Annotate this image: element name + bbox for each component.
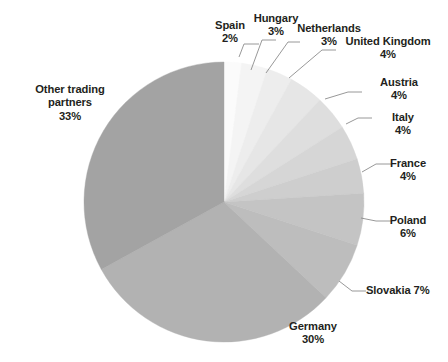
pie-label-poland: Poland 6% <box>372 214 444 241</box>
pie-label-poland-value: 6% <box>372 227 444 240</box>
leader-line-united-kingdom <box>289 50 336 78</box>
pie-label-other-value: 33% <box>18 110 122 123</box>
pie-label-united-kingdom-name: United Kingdom <box>330 35 446 48</box>
pie-label-slovakia-name: Slovakia 7% <box>366 284 448 297</box>
pie-label-other-name-line2: partners <box>18 96 122 109</box>
pie-chart-figure: Spain 2% Hungary 3% Netherlands 3% Unite… <box>0 0 448 362</box>
pie-label-italy: Italy 4% <box>366 111 440 138</box>
pie-label-france: France 4% <box>372 157 444 184</box>
pie-label-germany-value: 30% <box>272 333 354 346</box>
pie-label-other-name-line1: Other trading <box>18 83 122 96</box>
pie-label-italy-value: 4% <box>366 124 440 137</box>
leader-line-austria <box>325 92 362 99</box>
pie-label-poland-name: Poland <box>372 214 444 227</box>
pie-label-austria-value: 4% <box>358 89 440 102</box>
pie-label-netherlands-name: Netherlands <box>286 22 372 35</box>
pie-label-italy-name: Italy <box>366 111 440 124</box>
pie-label-germany-name: Germany <box>272 320 354 333</box>
pie-label-france-name: France <box>372 157 444 170</box>
leader-line-slovakia <box>339 281 366 291</box>
pie-label-other-trading-partners: Other trading partners 33% <box>18 83 122 123</box>
pie-label-united-kingdom: United Kingdom 4% <box>330 35 446 62</box>
pie-label-united-kingdom-value: 4% <box>330 48 446 61</box>
pie-label-slovakia: Slovakia 7% <box>366 284 448 297</box>
pie-slice-group <box>84 62 364 342</box>
pie-label-austria-name: Austria <box>358 76 440 89</box>
pie-label-germany: Germany 30% <box>272 320 354 347</box>
leader-line-spain <box>239 44 259 57</box>
pie-label-austria: Austria 4% <box>358 76 440 103</box>
pie-label-france-value: 4% <box>372 170 444 183</box>
